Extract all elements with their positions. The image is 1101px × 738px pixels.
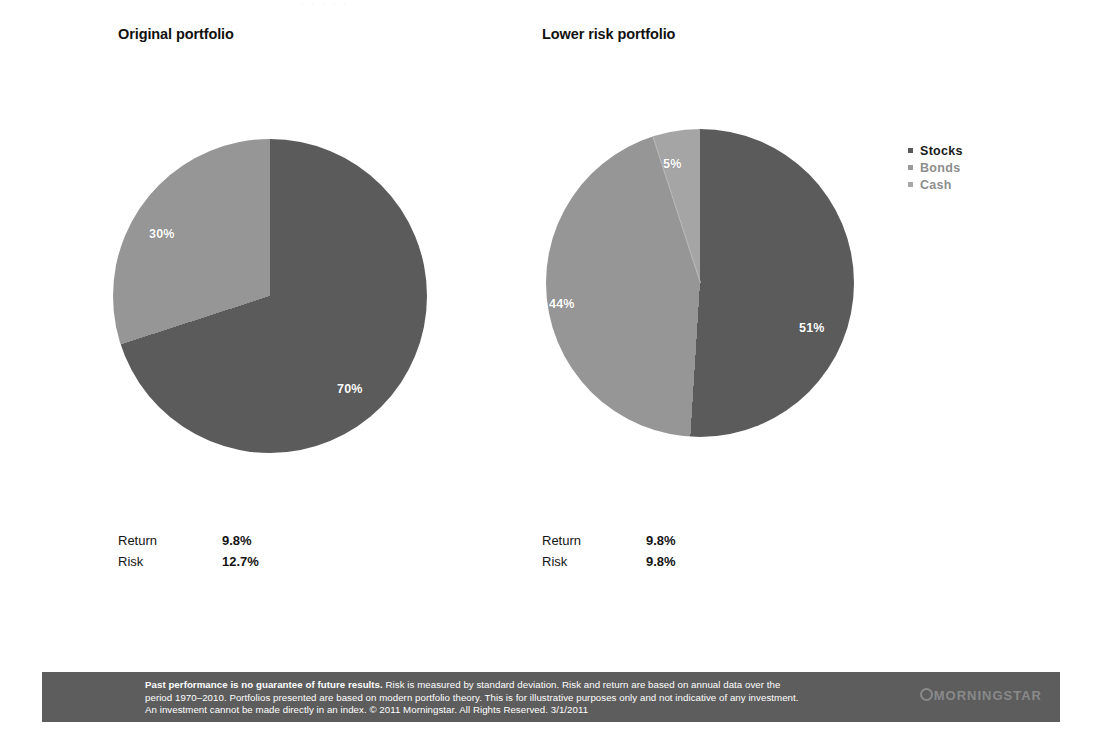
stats-label-risk: Risk [542,554,646,569]
stats-value-risk: 12.7% [222,554,259,569]
legend-item-stocks: Stocks [908,142,963,159]
slice-label-stocks-original: 70% [337,382,363,396]
panel-title-lower-risk: Lower risk portfolio [542,26,675,42]
chart-page: · · · · · Original portfolio 30% 70% Ret… [0,0,1101,738]
legend-item-cash: Cash [908,176,963,193]
footer-line-2: period 1970–2010. Portfolios presented a… [145,692,905,705]
stats-label-return: Return [542,533,646,548]
stats-lower-risk: Return 9.8% Risk 9.8% [542,533,676,575]
stats-value-risk: 9.8% [646,554,676,569]
footer-line-1-rest: Risk is measured by standard deviation. … [383,679,781,690]
legend-swatch-icon-stocks [908,148,913,153]
stats-row-return: Return 9.8% [118,533,259,554]
pie-body-original: 30% 70% [113,139,427,453]
slice-label-bonds-original: 30% [149,227,175,241]
footer-text: Past performance is no guarantee of futu… [145,679,905,717]
stats-row-risk: Risk 9.8% [542,554,676,575]
morningstar-mark-icon [920,688,933,701]
legend-swatch-icon-bonds [908,165,913,170]
legend-label-cash: Cash [920,178,952,192]
pie-chart-original: 30% 70% [113,139,427,453]
slice-label-bonds-lower-risk: 44% [549,297,575,311]
legend-label-bonds: Bonds [920,161,960,175]
chart-legend: Stocks Bonds Cash [908,142,963,193]
stats-row-return: Return 9.8% [542,533,676,554]
legend-label-stocks: Stocks [920,144,963,158]
stats-value-return: 9.8% [646,533,676,548]
footer-bold-lead: Past performance is no guarantee of futu… [145,679,383,690]
pie-chart-lower-risk: 5% 44% 51% [546,129,854,437]
footer-line-1: Past performance is no guarantee of futu… [145,679,905,692]
morningstar-wordmark: MORNINGSTAR [934,688,1042,703]
slice-label-cash-lower-risk: 5% [663,157,681,171]
stats-label-return: Return [118,533,222,548]
legend-swatch-icon-cash [908,182,913,187]
stats-original: Return 9.8% Risk 12.7% [118,533,259,575]
panel-title-original: Original portfolio [118,26,234,42]
pie-body-lower-risk: 5% 44% 51% [546,129,854,437]
footer-disclaimer-bar: Past performance is no guarantee of futu… [42,672,1060,722]
stats-label-risk: Risk [118,554,222,569]
top-partial-text: · · · · · [300,0,630,6]
footer-line-3: An investment cannot be made directly in… [145,704,905,717]
stats-row-risk: Risk 12.7% [118,554,259,575]
slice-label-stocks-lower-risk: 51% [799,321,825,335]
stats-value-return: 9.8% [222,533,252,548]
legend-item-bonds: Bonds [908,159,963,176]
morningstar-logo: MORNINGSTAR [920,688,1042,703]
